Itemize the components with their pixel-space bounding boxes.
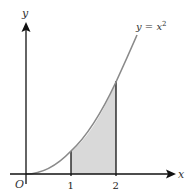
- area-under-curve-diagram: y x O 1 2 y = x2: [0, 0, 191, 194]
- tick-label-1: 1: [68, 180, 74, 191]
- curve-label: y = x2: [135, 20, 167, 32]
- curve-label-text: y = x: [135, 21, 162, 32]
- y-axis-label: y: [21, 7, 29, 20]
- tick-label-2: 2: [113, 180, 119, 191]
- origin-label: O: [15, 178, 24, 191]
- curve-label-exponent: 2: [162, 20, 166, 28]
- x-axis-label: x: [178, 168, 185, 181]
